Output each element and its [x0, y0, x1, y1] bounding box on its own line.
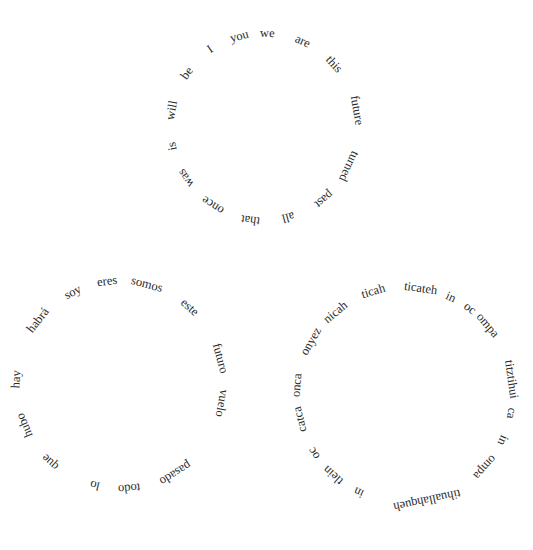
circle-word: onca	[290, 373, 305, 398]
circle-word: ticah	[360, 282, 387, 301]
circle-word: titztihui	[503, 360, 521, 400]
circle-word: tihuallahqueh	[393, 487, 462, 513]
circle-word: ca	[504, 407, 518, 420]
circle-word: in	[495, 433, 510, 447]
circle-word: in	[352, 485, 366, 500]
circle-word: ompa	[471, 453, 499, 482]
circle-word: nicah	[321, 299, 350, 326]
circle-word: oc	[461, 300, 478, 317]
circle-word: onyez	[299, 325, 325, 357]
circle-word: in	[443, 289, 457, 304]
circle-word: catca	[291, 405, 309, 433]
circle-word: ticateh	[403, 279, 438, 296]
circle-word: tlein	[320, 463, 345, 487]
nahuatl-word-circle: ticatehinocompatitztihuicainompatihualla…	[0, 0, 533, 550]
circle-word: ompa	[474, 311, 501, 340]
circle-word: oc	[306, 445, 323, 462]
